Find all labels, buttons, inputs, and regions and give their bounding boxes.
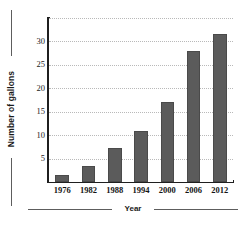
bar-1988 bbox=[108, 148, 122, 182]
plot-area bbox=[49, 18, 233, 182]
y-tick-label: 15 bbox=[23, 107, 45, 116]
bar-2012 bbox=[213, 34, 227, 182]
x-tick-label: 1994 bbox=[128, 185, 154, 195]
gridline bbox=[49, 18, 233, 19]
x-axis-title-group: Year bbox=[28, 203, 238, 217]
y-tick-label: 25 bbox=[23, 60, 45, 69]
bar-1982 bbox=[82, 166, 96, 182]
bar-1994 bbox=[134, 131, 148, 182]
x-tick-label: 2012 bbox=[207, 185, 233, 195]
x-tick-label: 2006 bbox=[180, 185, 206, 195]
y-tick-label: 20 bbox=[23, 84, 45, 93]
x-tick-label: 1976 bbox=[49, 185, 75, 195]
gridline bbox=[49, 41, 233, 42]
x-tick-label: 2000 bbox=[154, 185, 180, 195]
y-axis-tick-labels: 30252015105 bbox=[20, 18, 45, 182]
y-tick-label: 10 bbox=[23, 131, 45, 140]
x-tick-label: 1982 bbox=[75, 185, 101, 195]
bar-1976 bbox=[55, 175, 69, 182]
y-axis-title: Number of gallons bbox=[6, 53, 16, 165]
gridline bbox=[49, 65, 233, 66]
bar-2006 bbox=[187, 51, 201, 182]
y-axis-title-group: Number of gallons bbox=[2, 8, 20, 208]
bar-2000 bbox=[161, 102, 175, 182]
y-tick-label: 30 bbox=[23, 37, 45, 46]
x-tick-label: 1988 bbox=[102, 185, 128, 195]
y-axis-title-rule-top bbox=[11, 10, 12, 56]
y-axis-title-rule-bottom bbox=[11, 158, 12, 206]
x-axis-tick-labels: 1976198219881994200020062012 bbox=[49, 185, 233, 199]
bar-chart-figure: Number of gallons 30252015105 1976198219… bbox=[0, 0, 251, 233]
y-tick-label: 5 bbox=[23, 154, 45, 163]
gridline bbox=[49, 88, 233, 89]
gridline bbox=[49, 112, 233, 113]
x-axis-title: Year bbox=[28, 204, 238, 213]
